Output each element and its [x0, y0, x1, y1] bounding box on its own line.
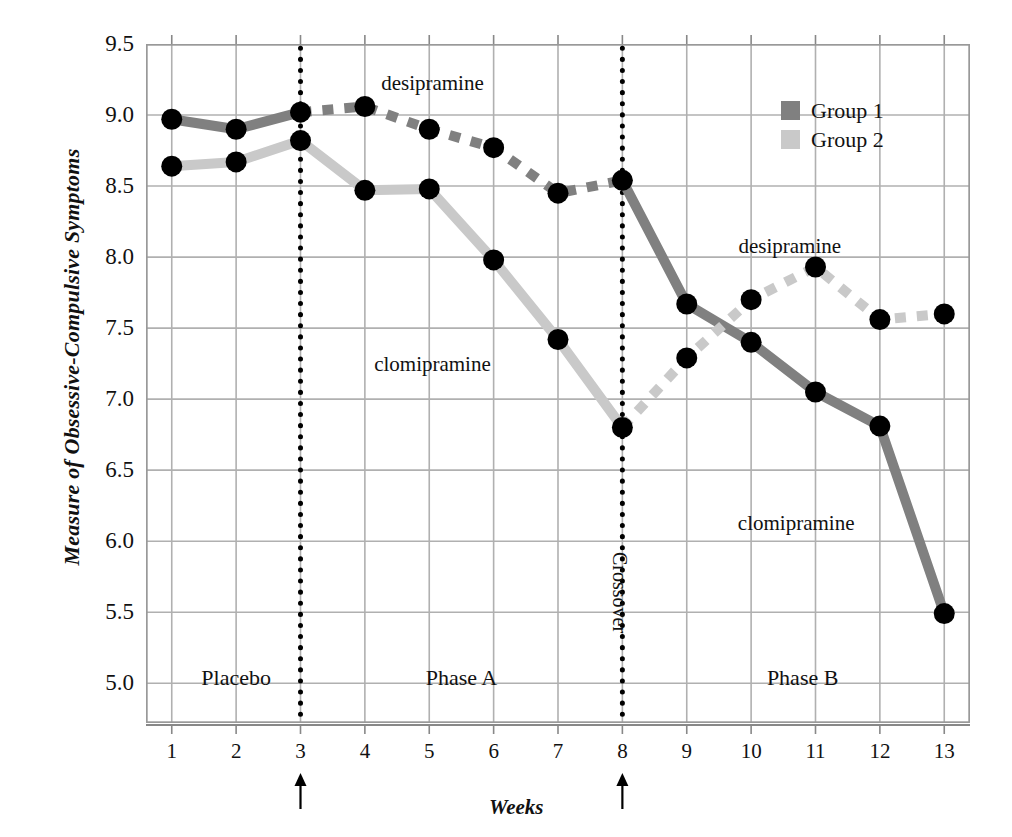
data-point-group2-week4 — [354, 180, 375, 201]
x-tick-label: 11 — [796, 741, 836, 762]
y-tick-label: 9.5 — [76, 32, 134, 55]
x-tick-label: 3 — [281, 741, 321, 762]
y-tick-label: 9.0 — [76, 103, 134, 126]
phase-label-phase-b: Phase B — [767, 667, 839, 689]
x-axis-title: Weeks — [489, 795, 543, 820]
legend-item-group-2[interactable]: Group 2 — [781, 125, 884, 154]
data-point-group1-week7 — [548, 183, 569, 204]
y-tick-label: 8.0 — [76, 245, 134, 268]
x-tick-label: 2 — [216, 741, 256, 762]
legend-swatch-icon — [781, 130, 800, 149]
data-point-group1-week9 — [676, 293, 697, 314]
legend-swatch-icon — [781, 101, 800, 120]
annotation-clomipramine: clomipramine — [738, 513, 855, 534]
data-point-group1-week5 — [419, 119, 440, 140]
data-point-group1-week13 — [934, 603, 955, 624]
x-tick-label: 4 — [345, 741, 385, 762]
data-point-group1-week2 — [226, 119, 247, 140]
crossover-label: Crossover — [608, 552, 631, 633]
legend-item-group-1[interactable]: Group 1 — [781, 96, 884, 125]
y-tick-label: 7.5 — [76, 316, 134, 339]
data-point-group2-week12 — [869, 309, 890, 330]
legend-label: Group 2 — [811, 129, 884, 151]
x-tick-label: 8 — [602, 741, 642, 762]
data-point-group2-week7 — [548, 329, 569, 350]
data-point-group1-week1 — [161, 109, 182, 130]
x-tick-label: 13 — [924, 741, 964, 762]
legend-label: Group 1 — [811, 100, 884, 122]
annotation-desipramine: desipramine — [738, 236, 841, 257]
series-2-segment-2-solid — [301, 141, 623, 428]
x-tick-label: 9 — [667, 741, 707, 762]
data-point-group1-week3 — [290, 102, 311, 123]
data-point-group2-week1 — [161, 156, 182, 177]
data-point-group2-week6 — [483, 249, 504, 270]
x-tick-label: 7 — [538, 741, 578, 762]
data-point-group2-week13 — [934, 303, 955, 324]
phase-label-phase-a: Phase A — [426, 667, 498, 689]
x-tick-label: 6 — [474, 741, 514, 762]
data-point-group1-week6 — [483, 137, 504, 158]
y-tick-label: 5.0 — [76, 671, 134, 694]
x-tick-label: 5 — [409, 741, 449, 762]
x-tick-label: 12 — [860, 741, 900, 762]
phase-label-placebo: Placebo — [201, 667, 271, 689]
annotation-clomipramine: clomipramine — [374, 354, 491, 375]
data-point-group1-week10 — [741, 332, 762, 353]
data-point-group2-week3 — [290, 130, 311, 151]
data-point-group2-week10 — [741, 289, 762, 310]
axis-arrow-head-week8 — [616, 773, 628, 786]
vertical-reference-lines — [301, 44, 623, 723]
axis-arrow-head-week3 — [295, 773, 307, 786]
chart-legend: Group 1Group 2 — [781, 96, 884, 154]
data-point-group1-week4 — [354, 96, 375, 117]
x-tick-label: 1 — [152, 741, 192, 762]
data-point-group2-week8 — [612, 417, 633, 438]
data-point-group1-week8 — [612, 170, 633, 191]
annotation-desipramine: desipramine — [381, 73, 484, 94]
series-2-segment-3-dashed — [622, 267, 944, 428]
y-tick-label: 6.0 — [76, 529, 134, 552]
x-tick-label: 10 — [731, 741, 771, 762]
data-point-group2-week9 — [676, 347, 697, 368]
chart-figure: Measure of Obsessive-Compulsive Symptoms… — [0, 0, 1012, 837]
y-tick-label: 6.5 — [76, 458, 134, 481]
y-tick-label: 7.0 — [76, 387, 134, 410]
data-point-group2-week11 — [805, 257, 826, 278]
data-point-group1-week12 — [869, 416, 890, 437]
y-tick-label: 5.5 — [76, 600, 134, 623]
data-point-group2-week2 — [226, 151, 247, 172]
data-point-group1-week11 — [805, 382, 826, 403]
y-tick-label: 8.5 — [76, 174, 134, 197]
data-point-group2-week5 — [419, 178, 440, 199]
